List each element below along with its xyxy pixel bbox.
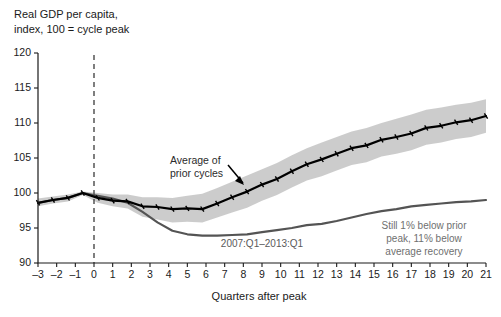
annotation-gap-note: Still 1% below prior peak, 11% below ave… [381, 220, 467, 257]
x-tick-label: 8 [240, 268, 246, 280]
x-tick-label: 13 [331, 268, 343, 280]
x-tick-label: 3 [147, 268, 153, 280]
x-tick-label: 15 [368, 268, 380, 280]
x-tick-label: 17 [405, 268, 417, 280]
x-tick-label: 9 [259, 268, 265, 280]
x-tick-label: 20 [461, 268, 473, 280]
y-axis-title-line-1: Real GDP per capita, [14, 8, 118, 20]
annotation-gap-line-2: peak, 11% below [386, 233, 462, 244]
annotation-gap-line-3: average recovery [385, 246, 462, 257]
x-tick-label: –1 [69, 268, 81, 280]
x-tick-label: 16 [387, 268, 399, 280]
y-tick-label: 110 [14, 116, 31, 128]
annotation-avg-line-1: Average of [170, 154, 221, 166]
x-tick-label: 18 [424, 268, 436, 280]
x-tick-label: 21 [480, 268, 492, 280]
x-tick-label: 14 [349, 268, 361, 280]
x-axis-title: Quarters after peak [212, 290, 307, 302]
y-tick-label: 120 [13, 46, 31, 58]
x-tick-label: 5 [184, 268, 190, 280]
x-tick-label: 12 [312, 268, 324, 280]
x-tick-label: 2 [128, 268, 134, 280]
chart-container: Real GDP per capita, index, 100 = cycle … [0, 0, 501, 317]
x-tick-label: 19 [443, 268, 455, 280]
y-axis-title-line-2: index, 100 = cycle peak [14, 23, 130, 35]
x-tick-label: –2 [51, 268, 63, 280]
x-tick-label: 11 [294, 268, 305, 280]
x-tick-label: –3 [32, 268, 44, 280]
y-tick-label: 100 [13, 186, 31, 198]
annotation-current-cycle-label: 2007:Q1–2013:Q1 [221, 238, 304, 249]
x-tick-label: 1 [110, 268, 116, 280]
y-tick-label: 115 [14, 81, 31, 93]
x-tick-label: 7 [222, 268, 228, 280]
y-tick-label: 105 [13, 151, 31, 163]
x-tick-label: 0 [91, 268, 97, 280]
gdp-per-capita-line-chart: Real GDP per capita, index, 100 = cycle … [0, 0, 501, 317]
annotation-gap-line-1: Still 1% below prior [381, 220, 467, 231]
y-tick-label: 95 [19, 221, 31, 233]
annotation-avg-line-2: prior cycles [170, 167, 223, 179]
x-tick-label: 4 [166, 268, 172, 280]
y-tick-label: 90 [19, 256, 31, 268]
x-tick-label: 6 [203, 268, 209, 280]
x-tick-label: 10 [275, 268, 287, 280]
